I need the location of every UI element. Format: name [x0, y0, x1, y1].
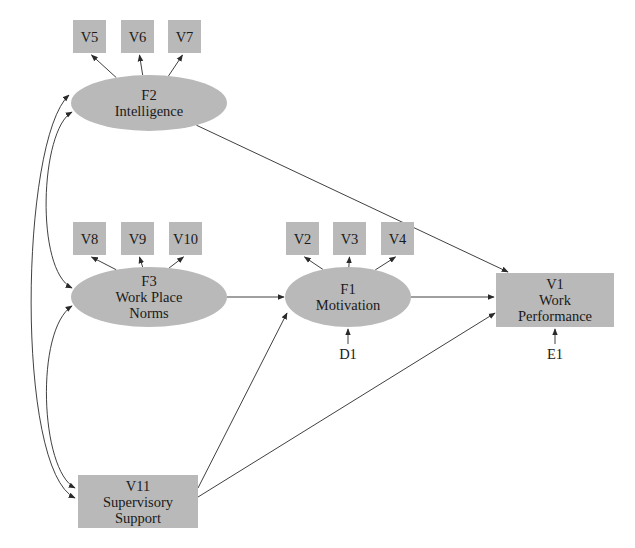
node-label-line: V2 [294, 231, 312, 247]
observed-variable-v2: V2 [286, 222, 319, 255]
node-label-line: V6 [129, 29, 147, 45]
path-v11-to-v1 [198, 313, 495, 497]
node-label-line: F1 [340, 281, 355, 297]
nodes-layer: F2IntelligenceF3Work PlaceNormsF1Motivat… [71, 20, 614, 528]
latent-factor-f2: F2Intelligence [71, 75, 227, 131]
node-label-line: F2 [141, 87, 156, 103]
observed-variable-v4: V4 [381, 222, 414, 255]
node-label-line: V3 [341, 231, 359, 247]
path-v11-to-f1 [198, 313, 287, 488]
sem-path-diagram: F2IntelligenceF3Work PlaceNormsF1Motivat… [0, 0, 635, 548]
node-label-line: V7 [176, 29, 194, 45]
observed-variable-v5: V5 [73, 20, 106, 53]
node-label-line: F3 [141, 273, 156, 289]
observed-variable-v11: V11SupervisorySupport [78, 475, 198, 528]
node-label-line: Support [115, 510, 161, 526]
latent-factor-f3: F3Work PlaceNorms [71, 267, 227, 327]
node-label-line: Performance [518, 308, 592, 324]
node-label-line: Work Place [116, 289, 183, 305]
covariance-f2-f3 [46, 112, 72, 288]
node-label-line: V9 [129, 231, 147, 247]
observed-variable-v9: V9 [121, 222, 154, 255]
path-f1-to-v3 [349, 257, 350, 267]
error-term-e1: E1 [547, 346, 563, 362]
observed-variable-v3: V3 [333, 222, 366, 255]
observed-variable-v1: V1WorkPerformance [496, 273, 614, 327]
node-label-line: Intelligence [115, 103, 183, 119]
node-label-line: V11 [126, 478, 150, 494]
node-label-line: V4 [389, 231, 407, 247]
node-label-line: V8 [81, 231, 99, 247]
path-f1-to-v2 [305, 257, 323, 269]
node-label-line: V10 [173, 231, 198, 247]
observed-variable-v10: V10 [169, 222, 202, 255]
error-terms-layer: D1E1 [339, 346, 563, 362]
path-f3-to-v9 [140, 257, 143, 267]
path-f1-to-v4 [375, 257, 395, 270]
path-f3-to-v8 [92, 257, 117, 270]
node-label-line: Supervisory [103, 494, 174, 510]
node-label-line: Norms [129, 305, 169, 321]
path-f2-to-v6 [140, 55, 143, 75]
covariance-f3-v11 [46, 306, 75, 488]
node-label-line: V1 [546, 276, 564, 292]
path-f2-to-v7 [169, 55, 183, 76]
node-label-line: Motivation [316, 297, 381, 313]
error-term-d1: D1 [339, 346, 357, 362]
observed-variable-v6: V6 [121, 20, 154, 53]
covariance-f2-v11 [31, 95, 75, 498]
observed-variable-v7: V7 [168, 20, 201, 53]
path-f3-to-v10 [169, 257, 183, 268]
observed-variable-v8: V8 [73, 222, 106, 255]
node-label-line: V5 [81, 29, 99, 45]
path-f2-to-v5 [92, 55, 117, 78]
node-label-line: Work [539, 292, 572, 308]
latent-factor-f1: F1Motivation [285, 267, 411, 327]
